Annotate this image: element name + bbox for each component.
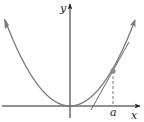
y-axis-label: y: [59, 2, 67, 15]
x-axis-label: x: [131, 109, 138, 122]
parabola-tangent-diagram: y x a: [0, 0, 144, 122]
tangent-line: [91, 42, 129, 110]
tangent-point: [110, 68, 115, 73]
point-a-label: a: [110, 106, 117, 119]
